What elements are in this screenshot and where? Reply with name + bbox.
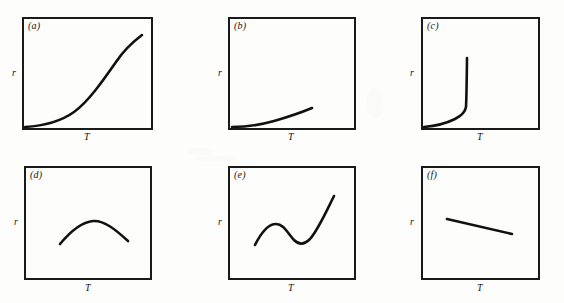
panel-a-y-label: r (12, 67, 16, 79)
panel-e-curve (228, 166, 356, 280)
panel-c-y-label: r (410, 67, 414, 79)
panel-b-curve (228, 17, 356, 130)
panel-a-curve (22, 17, 153, 130)
panel-d: (d) (24, 166, 152, 280)
panel-a-x-label: T (84, 131, 90, 143)
panel-c: (c) (421, 17, 540, 130)
panel-f-x-label: T (477, 282, 483, 294)
panel-e-x-label: T (288, 282, 294, 294)
panel-b: (b) (228, 17, 356, 130)
panel-d-curve (24, 166, 152, 280)
panel-b-x-label: T (288, 131, 294, 143)
panel-a: (a) (22, 17, 153, 130)
scan-artifact (366, 88, 384, 118)
panel-e: (e) (228, 166, 356, 280)
panel-f-y-label: r (410, 216, 414, 228)
panel-d-x-label: T (85, 282, 91, 294)
panel-b-y-label: r (218, 67, 222, 79)
figure-canvas: (a) r T (b) r T (c) r T (d) r T (e) (0, 0, 564, 303)
panel-f: (f) (421, 166, 540, 280)
panel-f-curve (421, 166, 540, 280)
scan-artifact (196, 156, 236, 162)
panel-d-y-label: r (14, 216, 18, 228)
scan-artifact (188, 148, 214, 155)
panel-c-curve (421, 17, 540, 130)
panel-e-y-label: r (218, 216, 222, 228)
panel-c-x-label: T (477, 131, 483, 143)
